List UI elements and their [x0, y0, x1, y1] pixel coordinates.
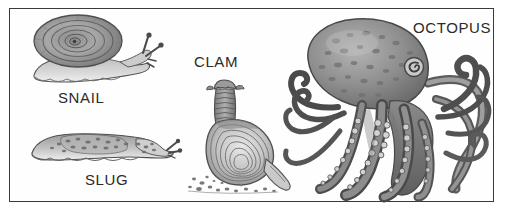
- slug-figure: [26, 123, 181, 171]
- octopus-figure: [278, 13, 494, 199]
- snail-label: SNAIL: [58, 89, 104, 106]
- slug-label: SLUG: [85, 171, 128, 188]
- clam-label: CLAM: [194, 53, 238, 70]
- illustration-plate: SNAIL: [0, 0, 505, 212]
- snail-figure: [24, 13, 164, 93]
- octopus-label: OCTOPUS: [413, 19, 491, 36]
- plate-frame: SNAIL: [9, 8, 494, 202]
- slug-illustration: [26, 123, 181, 171]
- octopus-illustration: [278, 13, 494, 199]
- snail-illustration: [24, 13, 164, 93]
